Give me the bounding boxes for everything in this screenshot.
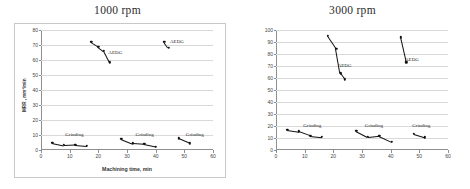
gridline (41, 90, 213, 91)
series-annotation-label: AEDG (405, 57, 419, 62)
x-tick-label: 30 (359, 154, 365, 159)
y-tick-mark (274, 78, 276, 79)
y-tick-mark (39, 75, 41, 76)
figure-root: 1000 rpm MRR , mm³/min Machining time, m… (0, 0, 470, 189)
y-tick-mark (274, 126, 276, 127)
series-annotation-label: AEDG (338, 63, 352, 68)
y-tick-mark (274, 66, 276, 67)
y-tick-label: 10 (32, 133, 38, 138)
gridline (276, 114, 448, 115)
y-tick-mark (274, 114, 276, 115)
gridline (41, 30, 213, 31)
y-tick-label: 20 (32, 118, 38, 123)
gridline (276, 54, 448, 55)
series-annotation-label: Grinding (303, 123, 321, 128)
x-tick-label: 10 (302, 154, 308, 159)
gridline (276, 66, 448, 67)
gridline (41, 45, 213, 46)
series-annotation-label: Grinding (412, 123, 430, 128)
y-tick-label: 0 (270, 148, 273, 153)
x-tick-label: 0 (40, 154, 43, 159)
data-point (109, 61, 111, 63)
y-tick-mark (39, 120, 41, 121)
gridline (41, 75, 213, 76)
x-tick-label: 40 (153, 154, 159, 159)
y-tick-mark (274, 138, 276, 139)
series-annotation-label: Grinding (365, 123, 383, 128)
y-tick-label: 70 (32, 43, 38, 48)
y-tick-label: 70 (267, 64, 273, 69)
y-tick-label: 50 (32, 73, 38, 78)
y-tick-label: 0 (35, 148, 38, 153)
y-tick-mark (274, 54, 276, 55)
gridline (41, 120, 213, 121)
x-tick-label: 20 (96, 154, 102, 159)
y-tick-label: 80 (267, 52, 273, 57)
gridline (41, 105, 213, 106)
y-tick-label: 80 (32, 28, 38, 33)
x-tick-label: 50 (417, 154, 423, 159)
plot-area-left: 010203040506070800102030405060AEDGAEDGGr… (41, 30, 213, 150)
x-tick-label: 10 (67, 154, 73, 159)
data-point (189, 142, 191, 144)
y-tick-label: 30 (32, 103, 38, 108)
y-tick-mark (39, 90, 41, 91)
x-tick-label: 20 (331, 154, 337, 159)
y-tick-label: 50 (267, 88, 273, 93)
chart-title-right: 3000 rpm (235, 4, 470, 16)
x-tick-label: 60 (445, 154, 451, 159)
gridline (276, 90, 448, 91)
series-annotation-label: Grinding (65, 132, 83, 137)
y-tick-mark (39, 105, 41, 106)
y-tick-mark (39, 135, 41, 136)
x-tick-label: 40 (388, 154, 394, 159)
gridline (276, 138, 448, 139)
y-tick-mark (39, 30, 41, 31)
y-tick-mark (274, 102, 276, 103)
y-axis-label-left: MRR , mm³/min (22, 79, 27, 112)
y-tick-label: 60 (267, 76, 273, 81)
x-tick-label: 50 (182, 154, 188, 159)
data-point (167, 47, 169, 49)
gridline (276, 102, 448, 103)
series-annotation-label: AEDG (108, 50, 122, 55)
x-tick-label: 30 (124, 154, 130, 159)
y-tick-mark (274, 30, 276, 31)
y-tick-label: 10 (267, 136, 273, 141)
gridline (276, 42, 448, 43)
chart-panel-1000rpm: 1000 rpm MRR , mm³/min Machining time, m… (0, 0, 235, 189)
y-tick-label: 40 (32, 88, 38, 93)
gridline (41, 60, 213, 61)
y-tick-label: 20 (267, 124, 273, 129)
x-axis-label-left: Machining time, min (41, 166, 213, 172)
x-tick-label: 0 (275, 154, 278, 159)
series-annotation-label: AEDG (170, 39, 184, 44)
series-annotation-label: Grinding (136, 132, 154, 137)
x-tick-label: 60 (210, 154, 216, 159)
y-tick-mark (274, 42, 276, 43)
y-tick-label: 60 (32, 58, 38, 63)
plot-area-right: 01020304050607080901000102030405060AEDGA… (276, 30, 448, 150)
y-tick-label: 90 (267, 40, 273, 45)
y-tick-mark (39, 45, 41, 46)
gridline (276, 30, 448, 31)
y-tick-label: 30 (267, 112, 273, 117)
chart-title-left: 1000 rpm (0, 4, 235, 16)
y-tick-label: 40 (267, 100, 273, 105)
data-line-segment (335, 49, 340, 74)
gridline (276, 78, 448, 79)
y-tick-mark (39, 60, 41, 61)
y-tick-label: 100 (265, 28, 273, 33)
series-annotation-label: Grinding (186, 132, 204, 137)
y-tick-mark (274, 90, 276, 91)
